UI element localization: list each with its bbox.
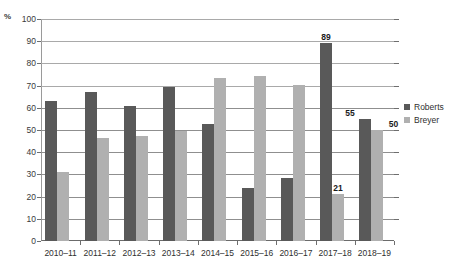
legend-swatch-icon bbox=[404, 117, 410, 123]
right-axis-tick-mark bbox=[394, 19, 399, 20]
bar-value-label: 55 bbox=[345, 108, 354, 118]
bar-breyer-2010-11 bbox=[57, 172, 69, 241]
bar-value-label: 89 bbox=[321, 32, 330, 42]
y-axis-tick-label: 30 bbox=[27, 169, 36, 179]
bar-breyer-2014-15 bbox=[214, 78, 226, 241]
y-axis-tick-label: 0 bbox=[31, 236, 36, 246]
y-axis-tick-label: 80 bbox=[27, 58, 36, 68]
x-axis-tick-label: 2014–15 bbox=[201, 248, 234, 258]
x-axis-tick-label: 2012–13 bbox=[123, 248, 156, 258]
bar-breyer-2017-18: 21 bbox=[332, 194, 344, 241]
y-axis-tick-label: 10 bbox=[27, 214, 36, 224]
right-axis-tick-mark bbox=[394, 86, 399, 87]
gridline bbox=[41, 19, 394, 20]
legend-swatch-icon bbox=[404, 104, 410, 110]
y-axis-unit-label: % bbox=[4, 12, 11, 21]
bar-value-label: 21 bbox=[333, 183, 342, 193]
x-axis-tick-mark bbox=[316, 241, 317, 245]
y-axis-tick-mark bbox=[37, 197, 41, 198]
bar-roberts-2014-15 bbox=[202, 124, 214, 241]
y-axis-tick-mark bbox=[37, 63, 41, 64]
legend-label: Breyer bbox=[414, 115, 439, 125]
x-axis-tick-label: 2015–16 bbox=[240, 248, 273, 258]
x-axis-tick-mark bbox=[237, 241, 238, 245]
x-axis-tick-label: 2010–11 bbox=[44, 248, 76, 258]
y-axis-tick-mark bbox=[37, 219, 41, 220]
y-axis-tick-mark bbox=[37, 241, 41, 242]
right-axis-tick-mark bbox=[394, 63, 399, 64]
plot-area: 0102030405060708090100 89215550 2010–112… bbox=[41, 19, 394, 241]
x-axis-tick-mark bbox=[355, 241, 356, 245]
y-axis-tick-label: 100 bbox=[22, 14, 36, 24]
y-axis-tick-mark bbox=[37, 152, 41, 153]
bar-breyer-2012-13 bbox=[136, 136, 148, 241]
x-axis-tick-mark bbox=[276, 241, 277, 245]
y-axis-tick-mark bbox=[37, 86, 41, 87]
bar-roberts-2011-12 bbox=[85, 92, 97, 241]
y-axis-tick-mark bbox=[37, 19, 41, 20]
x-axis-tick-label: 2011–12 bbox=[84, 248, 116, 258]
right-axis-tick-mark bbox=[394, 41, 399, 42]
y-axis-tick-label: 50 bbox=[27, 125, 36, 135]
right-axis-tick-mark bbox=[394, 152, 399, 153]
y-axis-tick-label: 60 bbox=[27, 103, 36, 113]
x-axis-tick-mark bbox=[394, 241, 395, 245]
bar-breyer-2015-16 bbox=[254, 76, 266, 241]
bar-breyer-2013-14 bbox=[175, 131, 187, 241]
bar-breyer-2016-17 bbox=[293, 85, 305, 242]
bar-roberts-2012-13 bbox=[124, 106, 136, 241]
x-axis-tick-mark bbox=[80, 241, 81, 245]
y-axis-tick-label: 70 bbox=[27, 81, 36, 91]
gridline bbox=[41, 63, 394, 64]
bar-roberts-2010-11 bbox=[45, 101, 57, 241]
bar-roberts-2013-14 bbox=[163, 87, 175, 241]
x-axis-tick-label: 2017–18 bbox=[319, 248, 352, 258]
y-axis-tick-mark bbox=[37, 108, 41, 109]
x-axis-tick-mark bbox=[159, 241, 160, 245]
bar-roberts-2017-18: 89 bbox=[320, 43, 332, 241]
bar-roberts-2016-17 bbox=[281, 178, 293, 241]
x-axis-tick-label: 2016–17 bbox=[279, 248, 312, 258]
bar-chart: % 0102030405060708090100 89215550 2010–1… bbox=[0, 0, 459, 269]
x-axis-tick-label: 2013–14 bbox=[162, 248, 195, 258]
right-axis-tick-mark bbox=[394, 219, 399, 220]
y-axis-tick-mark bbox=[37, 174, 41, 175]
legend-item-roberts[interactable]: Roberts bbox=[404, 100, 444, 113]
right-axis-tick-mark bbox=[394, 130, 399, 131]
bar-roberts-2015-16 bbox=[242, 188, 254, 241]
legend-label: Roberts bbox=[414, 102, 444, 112]
bar-breyer-2018-19: 50 bbox=[371, 130, 383, 241]
gridline bbox=[41, 41, 394, 42]
y-axis-tick-mark bbox=[37, 130, 41, 131]
right-axis-tick-mark bbox=[394, 174, 399, 175]
right-axis-tick-mark bbox=[394, 108, 399, 109]
x-axis-tick-label: 2018–19 bbox=[358, 248, 391, 258]
y-axis-tick-label: 90 bbox=[27, 36, 36, 46]
chart-legend: RobertsBreyer bbox=[404, 100, 444, 126]
bar-value-label: 50 bbox=[389, 119, 398, 129]
bar-breyer-2011-12 bbox=[97, 138, 109, 241]
x-axis-tick-mark bbox=[198, 241, 199, 245]
right-axis-tick-mark bbox=[394, 197, 399, 198]
y-axis-tick-mark bbox=[37, 41, 41, 42]
legend-item-breyer[interactable]: Breyer bbox=[404, 113, 444, 126]
bar-roberts-2018-19: 55 bbox=[359, 119, 371, 241]
x-axis-tick-mark bbox=[119, 241, 120, 245]
y-axis-tick-label: 20 bbox=[27, 192, 36, 202]
y-axis-tick-label: 40 bbox=[27, 147, 36, 157]
